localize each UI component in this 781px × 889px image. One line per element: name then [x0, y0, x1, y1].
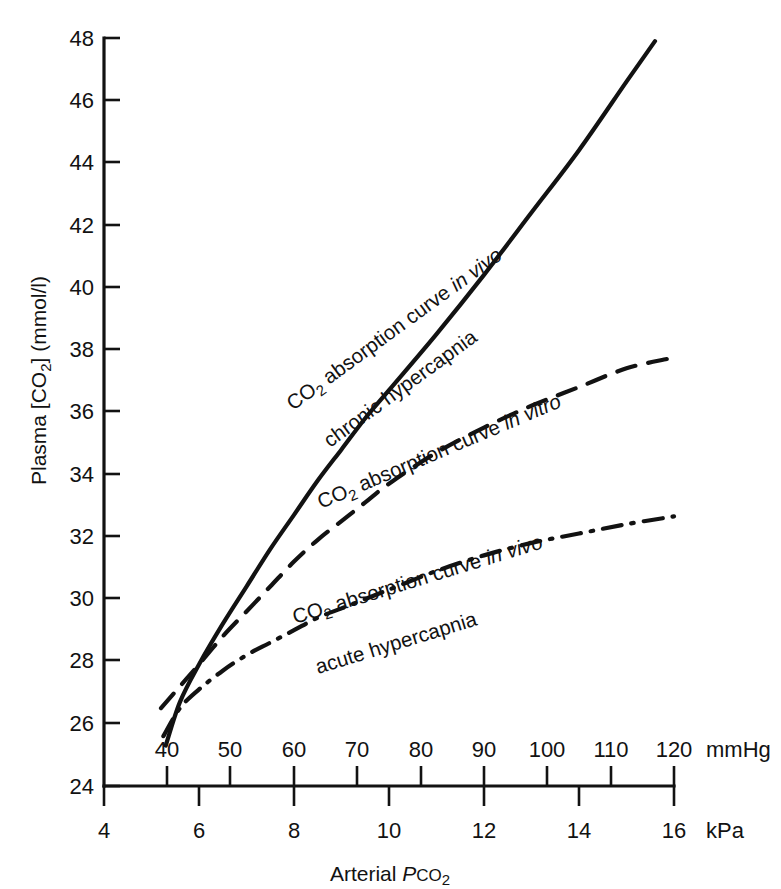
- x-ticklabel-mmhg: 60: [282, 737, 306, 762]
- figure-container: 48 46 44 42 40 38 36 34 32 30 28 26 24 4: [0, 0, 781, 889]
- x-ticklabel-kpa: 8: [288, 818, 300, 843]
- y-ticklabel: 40: [70, 275, 94, 300]
- y-ticklabel: 48: [70, 26, 94, 51]
- y-axis-title-main: Plasma [CO: [27, 372, 50, 485]
- y-ticklabel: 42: [70, 213, 94, 238]
- x-axis-title: Arterial PCO2: [330, 862, 450, 888]
- x-axis-kpa-tick-labels: 4 6 8 10 12 14 16 kPa: [98, 818, 745, 843]
- y-axis-title-units: ] (mmol/l): [27, 276, 50, 364]
- x-axis-mmhg-tick-labels: 40 50 60 70 80 90 100 110 120 mmHg: [155, 737, 771, 762]
- y-ticklabel: 46: [70, 88, 94, 113]
- y-ticklabel: 26: [70, 711, 94, 736]
- y-axis-tick-labels: 48 46 44 42 40 38 36 34 32 30 28 26 24: [70, 26, 94, 799]
- y-axis-title: Plasma [CO2] (mmol/l): [27, 276, 54, 485]
- y-ticklabel: 34: [70, 462, 94, 487]
- label-acute-hypercapnia: CO2 absorption curve in vivo acute hyper…: [289, 530, 546, 678]
- y-ticklabel: 44: [70, 150, 94, 175]
- y-ticklabel: 28: [70, 648, 94, 673]
- x-ticklabel-mmhg: 100: [529, 737, 566, 762]
- x-ticklabel-kpa: 6: [193, 818, 205, 843]
- y-axis-ticks: [104, 38, 120, 786]
- x-ticklabel-kpa: 12: [472, 818, 496, 843]
- label-acute-line1: CO2 absorption curve in vivo: [289, 530, 546, 632]
- x-axis-unit-mmhg: mmHg: [706, 737, 771, 762]
- x-axis-mmhg-ticks: [167, 766, 674, 786]
- x-ticklabel-mmhg: 50: [218, 737, 242, 762]
- label-chronic-hypercapnia: CO2 absorption curve in vivo chronic hyp…: [282, 243, 508, 452]
- y-ticklabel: 36: [70, 399, 94, 424]
- x-ticklabel-mmhg: 110: [593, 737, 628, 762]
- x-ticklabel-mmhg: 70: [345, 737, 369, 762]
- y-ticklabel: 30: [70, 586, 94, 611]
- x-axis-unit-kpa: kPa: [706, 818, 745, 843]
- y-axis-title-subscript: 2: [37, 363, 54, 371]
- x-axis-title-co: CO: [416, 866, 442, 885]
- x-ticklabel-kpa: 14: [567, 818, 591, 843]
- x-ticklabel-kpa: 4: [98, 818, 110, 843]
- co2-absorption-curves-chart: 48 46 44 42 40 38 36 34 32 30 28 26 24 4: [0, 0, 781, 889]
- x-ticklabel-mmhg: 120: [656, 737, 693, 762]
- y-ticklabel: 38: [70, 337, 94, 362]
- y-ticklabel: 32: [70, 524, 94, 549]
- curve-in-vitro: [161, 359, 667, 708]
- x-ticklabel-kpa: 16: [662, 818, 686, 843]
- x-axis-title-arterial: Arterial: [330, 862, 402, 885]
- label-acute-line2: acute hypercapnia: [312, 607, 480, 678]
- x-axis-title-subscript: 2: [442, 871, 450, 888]
- x-ticklabel-mmhg: 90: [472, 737, 496, 762]
- y-ticklabel: 24: [70, 774, 94, 799]
- x-axis-kpa-ticks: [104, 786, 674, 806]
- svg-text:Plasma [CO2] (mmol/l): Plasma [CO2] (mmol/l): [27, 276, 54, 485]
- svg-text:Arterial PCO2: Arterial PCO2: [330, 862, 450, 888]
- x-ticklabel-kpa: 10: [377, 818, 401, 843]
- x-axis-title-p: P: [402, 862, 416, 885]
- x-ticklabel-mmhg: 80: [409, 737, 433, 762]
